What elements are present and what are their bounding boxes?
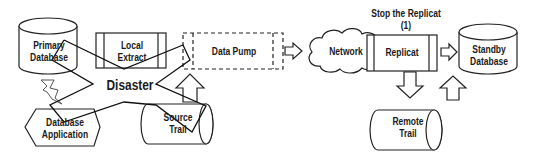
arrow-up-icon bbox=[440, 76, 466, 100]
database-application-line1: Database bbox=[35, 117, 95, 129]
arrow-right-icon bbox=[441, 44, 457, 60]
remote-trail-line1: Remote bbox=[384, 116, 432, 128]
database-application-label: Database Application bbox=[35, 117, 95, 141]
standby-database-line1: Standby bbox=[464, 44, 513, 56]
source-trail-line2: Trail bbox=[154, 124, 202, 136]
source-trail-line1: Source bbox=[154, 112, 202, 124]
primary-database-line2: Database bbox=[24, 52, 73, 64]
annotation-line1: Stop the Replicat bbox=[360, 8, 452, 20]
remote-trail-line2: Trail bbox=[384, 128, 432, 140]
local-extract-label: Local Extract bbox=[110, 40, 154, 64]
arrow-right-icon bbox=[285, 43, 302, 59]
disaster-recovery-diagram: Primary Database Local Extract Data Pump… bbox=[0, 0, 533, 155]
primary-database-line1: Primary bbox=[24, 40, 73, 52]
arrow-up-icon bbox=[176, 74, 204, 102]
database-application-line2: Application bbox=[35, 129, 95, 141]
remote-trail-label: Remote Trail bbox=[384, 116, 432, 140]
local-extract-line2: Extract bbox=[110, 52, 154, 64]
standby-database-line2: Database bbox=[464, 56, 513, 68]
replicat-label: Replicat bbox=[378, 47, 426, 59]
stop-replicat-annotation: Stop the Replicat (1) bbox=[360, 8, 452, 32]
disaster-label: Disaster bbox=[96, 77, 164, 93]
arrow-down-icon bbox=[397, 72, 423, 98]
standby-database-label: Standby Database bbox=[464, 44, 513, 68]
source-trail-label: Source Trail bbox=[154, 112, 202, 136]
local-extract-line1: Local bbox=[110, 40, 154, 52]
network-label: Network bbox=[321, 46, 372, 58]
data-pump-label: Data Pump bbox=[200, 46, 268, 58]
primary-database-label: Primary Database bbox=[24, 40, 73, 64]
annotation-line2: (1) bbox=[360, 20, 452, 32]
